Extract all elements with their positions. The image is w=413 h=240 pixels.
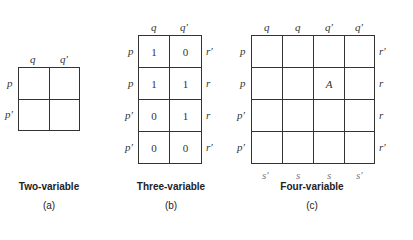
kmap-cell [50,100,80,130]
diagram-sublabel: (c) [306,200,318,211]
col-label: q′ [355,22,363,33]
kmap-grid: A [251,35,375,164]
kmap-cell [283,132,314,163]
bottom-label: s′ [262,170,269,181]
row-label: p [240,78,246,89]
kmap-cell [314,36,345,68]
kmap-cell: 0 [170,132,201,163]
kmap-cell: 0 [139,100,170,132]
bottom-label: s [327,170,331,181]
kmap-cell: 0 [139,132,170,163]
col-label: q [30,54,36,65]
kmap-cell [345,68,374,100]
row-label: p′ [237,110,245,121]
diagram-sublabel: (b) [165,200,177,211]
kmap-cell [252,68,283,100]
col-label: q′ [180,22,188,33]
kmap-cell [19,68,50,100]
kmap-cell-a: A [314,68,345,100]
kmap-cell [283,100,314,132]
kmap-cell [50,68,80,100]
bottom-label: s′ [356,170,363,181]
row-label: p′ [5,109,13,120]
right-label: r [379,110,383,121]
row-label: p [128,46,134,57]
right-label: r′ [379,46,386,57]
right-label: r [379,78,383,89]
diagram-title: Four-variable [280,181,343,192]
col-label: q [295,22,301,33]
right-label: r′ [379,142,386,153]
diagram-title: Three-variable [137,181,205,192]
kmap-cell [314,132,345,163]
col-label: q [151,22,157,33]
kmap-cell [345,100,374,132]
row-label: p′ [237,142,245,153]
right-label: r [206,110,210,121]
kmap-cell [345,36,374,68]
kmap-cell [19,100,50,130]
kmap-cell [252,132,283,163]
row-label: p′ [125,142,133,153]
kmap-cell: 0 [170,36,201,68]
kmap-cell [345,132,374,163]
row-label: p′ [125,110,133,121]
kmap-cell: 1 [139,68,170,100]
kmap-cell: 1 [170,68,201,100]
right-label: r′ [206,46,213,57]
col-label: q′ [325,22,333,33]
bottom-label: s [296,170,300,181]
row-label: p [7,78,13,89]
kmap-grid [18,67,80,131]
col-label: q′ [60,54,68,65]
kmap-cell [314,100,345,132]
kmap-cell: 1 [139,36,170,68]
col-label: q [264,22,270,33]
kmap-cell: 1 [170,100,201,132]
row-label: p [128,78,134,89]
right-label: r [206,78,210,89]
kmap-cell [252,100,283,132]
kmap-cell [283,68,314,100]
diagram-sublabel: (a) [43,200,55,211]
kmap-cell [252,36,283,68]
kmap-cell [283,36,314,68]
kmap-grid: 1 0 1 1 0 1 0 0 [138,35,202,164]
row-label: p [240,46,246,57]
diagram-title: Two-variable [19,181,79,192]
right-label: r′ [206,142,213,153]
